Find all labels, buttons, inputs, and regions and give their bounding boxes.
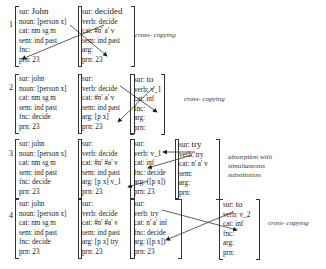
arrow-fnc-substitution (148, 155, 192, 168)
arrow-verb-to-fnc (22, 25, 104, 59)
copy-arrows (0, 0, 326, 269)
arrow-verb-to-fnc (162, 210, 237, 230)
arrow-arg-absorption (128, 181, 148, 187)
arrow-v1-to-arg (118, 86, 155, 122)
arrow-noun-to-arg (70, 25, 107, 56)
